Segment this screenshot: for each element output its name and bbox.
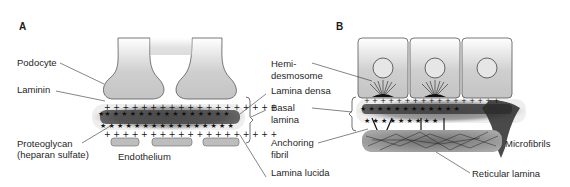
panel-b-letter: B (336, 21, 343, 32)
label-reticular-lamina: Reticular lamina (472, 168, 540, 179)
label-hemidesmosome-line2: desmosome (271, 70, 323, 81)
label-endothelium: Endothelium (118, 151, 171, 162)
panel-b-art: + + + + + + + + + + + + + + + + + ★ ★ ★ … (312, 38, 526, 173)
label-anchoring-fibril-line1: Anchoring (271, 137, 314, 148)
label-hemidesmosome-line1: Hemi- (271, 58, 296, 69)
label-basal-lamina-line2: lamina (271, 114, 299, 125)
label-basal-lamina-line1: Basal (271, 102, 295, 113)
svg-text:+ + + + + + + + + + + + + + +: + + + + + + + + + + + + + + + + + (364, 97, 499, 105)
label-proteoglycan-line2: (heparan sulfate) (17, 149, 89, 160)
label-proteoglycan-line1: Proteoglycan (17, 138, 72, 149)
label-microfibrils: Microfibrils (505, 138, 550, 149)
label-podocyte: Podocyte (17, 57, 57, 68)
label-laminin: Laminin (17, 84, 50, 95)
svg-text:★ ★ ★ ★ ★ ★ ★ ★ ★ ★ ★ ★: ★ ★ ★ ★ ★ ★ ★ ★ ★ ★ ★ ★ (360, 105, 460, 113)
label-lamina-lucida: Lamina lucida (271, 167, 330, 178)
panel-a-letter: A (19, 21, 26, 32)
svg-text:★★ ★ ★ ★ ★ ★ ★ ★ ★ ★ ★ ★ ★ ★ ★: ★★ ★ ★ ★ ★ ★ ★ ★ ★ ★ ★ ★ ★ ★ ★ (98, 110, 230, 118)
svg-text:★ ★ ★ ★ ★ ★ ★ ★ ★: ★ ★ ★ ★ ★ ★ ★ ★ ★ (364, 117, 438, 125)
label-anchoring-fibril-line2: fibril (271, 149, 288, 160)
svg-text:★ ★ ★ ★ ★ ★ ★ ★ ★ ★ ★ ★ ★ ★ ★: ★ ★ ★ ★ ★ ★ ★ ★ ★ ★ ★ ★ ★ ★ ★ ★ (100, 122, 234, 130)
svg-text:+ + + + + + + + + + + + + + +: + + + + + + + + + + + + + + + + + + + (104, 130, 277, 139)
label-lamina-densa: Lamina densa (271, 85, 331, 96)
